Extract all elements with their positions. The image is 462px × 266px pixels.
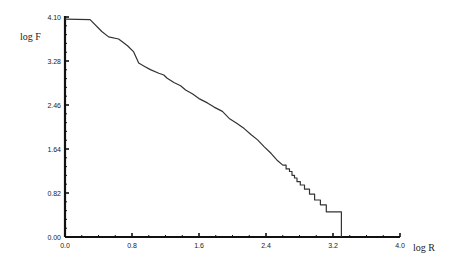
y-tick-label: 1.64 bbox=[47, 146, 61, 153]
x-tick-label: 4.0 bbox=[395, 242, 405, 249]
y-axis-title: log F bbox=[20, 31, 41, 42]
axes bbox=[65, 16, 400, 237]
x-tick-label: 0.8 bbox=[127, 242, 137, 249]
y-tick-label: 0.00 bbox=[47, 234, 61, 241]
y-tick-label: 0.82 bbox=[47, 190, 61, 197]
chart: 0.00.81.62.43.24.00.000.821.642.463.284.… bbox=[0, 0, 462, 266]
x-tick-label: 0.0 bbox=[60, 242, 70, 249]
x-axis-title: log R bbox=[413, 242, 435, 253]
y-tick-label: 3.28 bbox=[47, 58, 61, 65]
x-tick-label: 2.4 bbox=[261, 242, 271, 249]
y-tick-label: 2.46 bbox=[47, 102, 61, 109]
data-curve bbox=[65, 19, 341, 237]
y-tick-label: 4.10 bbox=[47, 14, 61, 21]
tick-labels: 0.00.81.62.43.24.00.000.821.642.463.284.… bbox=[47, 14, 405, 250]
tick-marks bbox=[65, 17, 400, 237]
x-tick-label: 1.6 bbox=[194, 242, 204, 249]
x-tick-label: 3.2 bbox=[328, 242, 338, 249]
